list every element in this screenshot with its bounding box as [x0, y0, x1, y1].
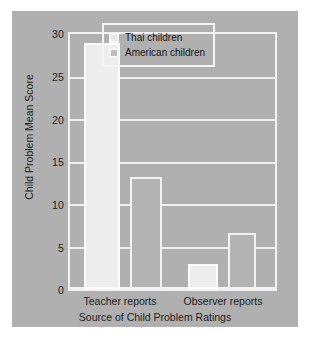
thai-swatch-icon — [109, 33, 119, 43]
y-tick-30: 30 — [38, 28, 64, 40]
legend: Thai children American children — [102, 23, 215, 67]
y-tick-5: 5 — [38, 242, 64, 254]
bar-thai-teacher — [84, 43, 120, 290]
y-tick-0: 0 — [38, 284, 64, 296]
legend-item-thai: Thai children — [109, 30, 207, 45]
plot-area — [68, 32, 277, 291]
legend-label-american: American children — [125, 47, 205, 58]
american-swatch-icon — [109, 48, 119, 58]
y-axis-ticks: 30 25 20 15 10 5 0 — [32, 32, 64, 291]
chart-figure: 30 25 20 15 10 5 0 Child Problem Mean Sc… — [12, 11, 298, 327]
legend-item-american: American children — [109, 45, 207, 60]
bar-american-teacher — [130, 177, 162, 289]
y-tick-15: 15 — [38, 156, 64, 168]
y-tick-20: 20 — [38, 114, 64, 126]
x-tick-teacher-reports: Teacher reports — [84, 295, 157, 307]
x-axis-ticks: Teacher reports Observer reports — [68, 295, 277, 311]
x-axis-label: Source of Child Problem Ratings — [12, 311, 298, 323]
y-axis-label: Child Problem Mean Score — [23, 42, 35, 232]
legend-label-thai: Thai children — [125, 32, 182, 43]
y-tick-10: 10 — [38, 199, 64, 211]
y-tick-25: 25 — [38, 71, 64, 83]
bar-thai-observer — [188, 264, 218, 290]
bar-american-observer — [228, 233, 256, 289]
x-tick-observer-reports: Observer reports — [184, 295, 263, 307]
